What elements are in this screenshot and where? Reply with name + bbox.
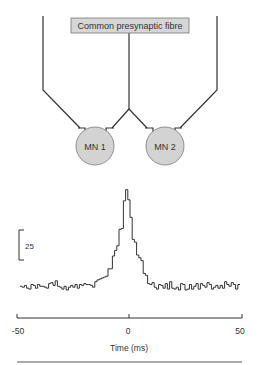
common-fibre-branch-left xyxy=(112,109,129,128)
scale-bar-label: 25 xyxy=(25,242,34,251)
x-axis xyxy=(17,314,242,318)
cross-correlogram-histogram xyxy=(20,190,240,290)
x-tick-label: 50 xyxy=(235,326,245,336)
scale-bar xyxy=(19,230,24,260)
x-axis-title: Time (ms) xyxy=(110,343,148,353)
x-tick-label: -50 xyxy=(12,326,25,336)
common-fibre-label: Common presynaptic fibre xyxy=(77,21,182,31)
figure: Common presynaptic fibre MN 1 MN 2 25 -5… xyxy=(0,0,258,365)
circuit-diagram xyxy=(43,16,217,134)
common-fibre-branch-right xyxy=(129,109,147,128)
motoneuron-1-label: MN 1 xyxy=(84,142,106,152)
x-tick-label: 0 xyxy=(126,326,131,336)
motoneuron-2-label: MN 2 xyxy=(154,142,176,152)
